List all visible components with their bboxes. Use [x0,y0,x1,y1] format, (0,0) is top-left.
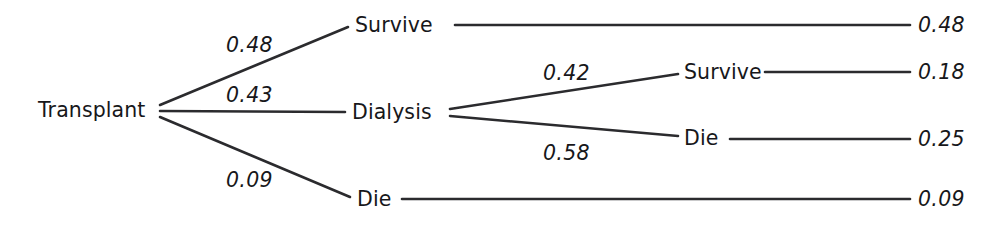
edge-label-transplant-die: 0.09 [226,170,273,191]
edge-label-dialysis-survive: 0.42 [543,63,590,84]
probability-tree-diagram: Transplant Survive Dialysis Die Survive … [0,0,1000,229]
outcome-value-die-transplant: 0.09 [918,189,965,210]
node-survive-level2: Survive [684,62,762,83]
node-die-level1: Die [357,189,391,210]
outcome-value-survive-transplant: 0.48 [918,15,965,36]
edge-label-transplant-dialysis: 0.43 [226,85,273,106]
node-transplant: Transplant [38,100,145,121]
node-dialysis: Dialysis [352,102,432,123]
outcome-value-survive-dialysis: 0.18 [918,62,965,83]
edge-transplant-to-dialysis [160,111,345,112]
edge-label-transplant-survive: 0.48 [226,35,273,56]
node-die-level2: Die [684,128,718,149]
edge-label-dialysis-die: 0.58 [543,143,590,164]
outcome-value-die-dialysis: 0.25 [918,129,965,150]
edge-dialysis-to-die [450,116,678,136]
tree-edges-canvas [0,0,1000,229]
node-survive-level1: Survive [355,15,433,36]
